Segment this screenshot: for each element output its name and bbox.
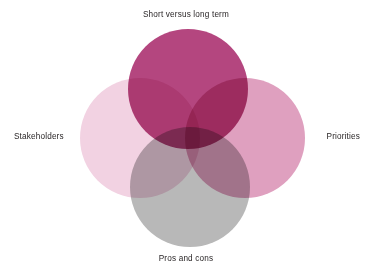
venn-circle-short-versus-long-term[interactable] (128, 29, 248, 149)
venn-label-priorities: Priorities (327, 132, 361, 142)
venn-label-pros-and-cons: Pros and cons (0, 254, 372, 264)
venn-label-short-versus-long-term: Short versus long term (0, 10, 372, 20)
venn-diagram: Short versus long term Stakeholders Prio… (0, 0, 372, 276)
venn-label-stakeholders: Stakeholders (14, 132, 64, 142)
